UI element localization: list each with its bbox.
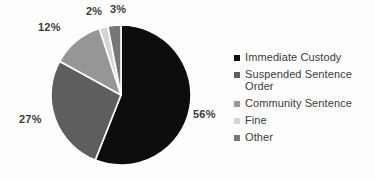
legend-item-label: Fine — [245, 114, 267, 126]
legend-item-label: Immediate Custody — [245, 51, 341, 63]
chart-legend: Immediate Custody Suspended Sentence Ord… — [234, 51, 374, 148]
legend-swatch-icon — [234, 135, 240, 141]
slice-value-immediate-custody: 56% — [193, 108, 216, 120]
legend-item-fine[interactable]: Fine — [234, 114, 374, 126]
slice-value-suspended-sentence-order: 27% — [19, 113, 42, 125]
legend-item-community-sentence[interactable]: Community Sentence — [234, 97, 374, 109]
legend-item-other[interactable]: Other — [234, 131, 374, 143]
legend-item-label: Suspended Sentence Order — [245, 68, 374, 92]
slice-value-fine: 2% — [86, 5, 102, 17]
slice-value-community-sentence: 12% — [38, 21, 61, 33]
pie-chart: 56% 27% 12% 2% 3% Immediate Custody Susp… — [0, 0, 375, 180]
legend-swatch-icon — [234, 118, 240, 124]
legend-item-immediate-custody[interactable]: Immediate Custody — [234, 51, 374, 63]
slice-value-other: 3% — [110, 3, 126, 15]
legend-item-suspended-sentence-order[interactable]: Suspended Sentence Order — [234, 68, 374, 92]
pie-svg — [0, 0, 230, 180]
legend-swatch-icon — [234, 101, 240, 107]
pie-plot-area: 56% 27% 12% 2% 3% — [0, 0, 230, 180]
legend-swatch-icon — [234, 55, 240, 61]
legend-swatch-icon — [234, 72, 240, 78]
legend-item-label: Community Sentence — [245, 97, 352, 109]
pie-slice-group — [51, 25, 191, 165]
legend-item-label: Other — [245, 131, 273, 143]
